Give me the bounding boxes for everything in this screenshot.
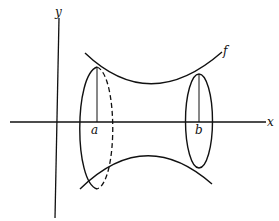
y-axis-label: y: [54, 5, 62, 19]
curve-label: f: [222, 44, 230, 58]
x-axis-label: x: [267, 115, 274, 129]
a-label: a: [91, 123, 98, 137]
solid-of-revolution-diagram: y x f a b: [0, 0, 279, 221]
curve-f: [85, 52, 222, 84]
left-disk-back: [97, 67, 113, 189]
y-axis: [55, 18, 59, 218]
b-label: b: [195, 123, 203, 137]
